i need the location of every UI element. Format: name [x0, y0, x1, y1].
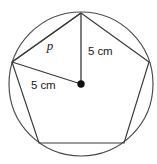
chord-label-p: p — [46, 38, 54, 53]
center-point-dot — [77, 80, 84, 87]
geometry-figure: p 5 cm 5 cm — [0, 0, 157, 164]
vertical-radius-label: 5 cm — [88, 45, 113, 57]
diagonal-radius-label: 5 cm — [31, 79, 56, 91]
pentagon-circle-diagram: p 5 cm 5 cm — [0, 0, 157, 164]
